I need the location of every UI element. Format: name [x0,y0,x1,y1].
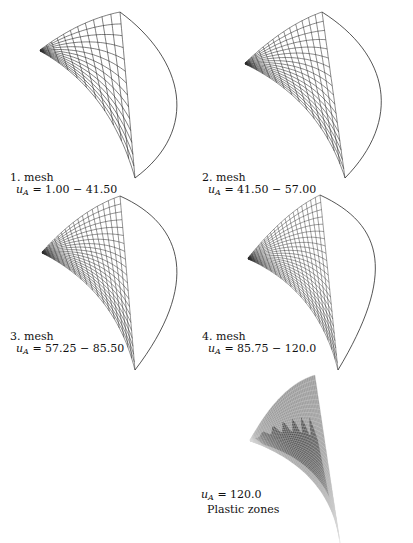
caption-panel-3: 3. mesh uA = 57.25 − 85.50 [10,331,124,358]
caption-panel-2: 2. mesh uA = 41.50 − 57.00 [202,172,316,199]
caption-range: uA = 41.50 − 57.00 [202,184,316,199]
caption-panel-5: uA = 120.0 Plastic zones [201,489,279,516]
mesh-boundary-4 [320,195,375,370]
caption-title: Plastic zones [201,504,279,516]
mesh-panel-1 [0,0,413,543]
caption-range: uA = 57.25 − 85.50 [10,343,124,358]
plastic-zones-mesh [250,375,340,543]
caption-range: uA = 85.75 − 120.0 [202,343,316,358]
mesh-refinement-figure: 1. mesh uA = 1.00 − 41.50 2. mesh uA = 4… [0,0,413,543]
mesh-boundary-2 [322,12,381,178]
caption-range: uA = 120.0 [201,489,279,504]
mesh-2 [245,12,345,178]
caption-range: uA = 1.00 − 41.50 [10,184,117,199]
mesh-1 [40,12,135,178]
mesh-boundary-1 [120,12,177,178]
caption-panel-1: 1. mesh uA = 1.00 − 41.50 [10,172,117,199]
caption-panel-4: 4. mesh uA = 85.75 − 120.0 [202,331,316,358]
